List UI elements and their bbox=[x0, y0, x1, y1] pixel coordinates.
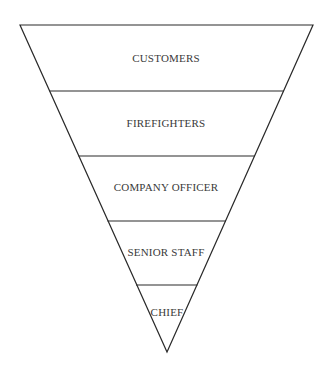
level-label-company-officer: COMPANY OFFICER bbox=[114, 181, 219, 193]
level-label-chief: CHIEF bbox=[151, 306, 184, 318]
level-label-senior-staff: SENIOR STAFF bbox=[127, 246, 204, 258]
level-label-firefighters: FIREFIGHTERS bbox=[127, 117, 206, 129]
level-label-customers: CUSTOMERS bbox=[132, 52, 200, 64]
inverted-pyramid-diagram: CUSTOMERS FIREFIGHTERS COMPANY OFFICER S… bbox=[0, 0, 325, 378]
